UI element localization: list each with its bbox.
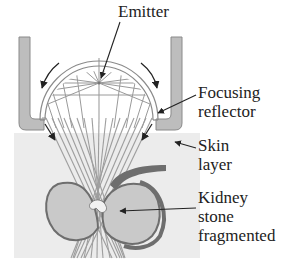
focusing-reflector-label-line2: reflector [198,102,256,121]
skin-layer-label-line1: Skin [198,136,229,155]
right-rotation-arrow [141,63,157,88]
lithotripsy-diagram: Emitter Focusing reflector Skin layer Ki… [0,0,290,265]
kidney-stone-label-line2: stone [198,207,234,226]
focusing-reflector-label-line1: Focusing [198,83,260,102]
left-rotation-arrow [42,63,59,88]
kidney-stone-label-line1: Kidney [198,188,248,207]
kidney-stone-label-line3: fragmented [198,226,275,245]
right-housing-bracket [156,37,182,130]
emitter-point [98,82,101,85]
emitter-label: Emitter [118,2,169,21]
skin-layer-label-line2: layer [198,155,232,174]
